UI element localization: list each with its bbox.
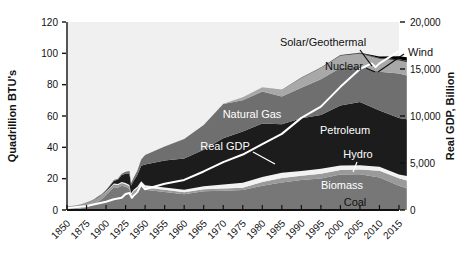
y2-tick-label: 15,000 [410,64,441,75]
x-tick-label: 1960 [166,217,190,241]
chart-figure: 02040608010012005,00010,00015,00020,0001… [0,0,466,263]
label-biomass: Biomass [321,179,364,191]
x-tick-label: 1955 [147,217,171,241]
x-tick-label: 2015 [381,217,405,241]
y-tick-label: 40 [47,142,59,153]
x-tick-label: 1900 [88,217,112,241]
label-nuclear: Nuclear [325,60,363,72]
x-tick-label: 1975 [225,217,249,241]
y-axis-ticks: 020406080100120 [41,17,66,216]
label-hydro: Hydro [343,148,372,160]
x-tick-label: 1990 [283,217,307,241]
y-tick-label: 80 [47,79,59,90]
y2-tick-label: 20,000 [410,17,441,28]
x-tick-label: 1875 [68,217,92,241]
x-tick-label: 1925 [107,217,131,241]
x-tick-label: 1970 [205,217,229,241]
energy-consumption-stacked-area-chart: 02040608010012005,00010,00015,00020,0001… [0,0,466,263]
y-tick-label: 60 [47,111,59,122]
y-tick-label: 120 [41,17,58,28]
label-natural-gas: Natural Gas [223,108,282,120]
label-coal: Coal [344,196,367,208]
y-tick-label: 20 [47,173,59,184]
y-tick-label: 0 [52,205,58,216]
label-wind: Wind [408,46,433,58]
y2-tick-label: 5,000 [410,158,435,169]
y-tick-label: 100 [41,48,58,59]
label-petroleum: Petroleum [320,124,370,136]
x-tick-label: 1980 [244,217,268,241]
x-tick-label: 2000 [322,217,346,241]
y2-tick-label: 0 [410,205,416,216]
x-tick-label: 2010 [361,217,385,241]
y2-tick-label: 10,000 [410,111,441,122]
x-tick-label: 1965 [186,217,210,241]
x-tick-label: 1995 [303,217,327,241]
x-tick-label: 2005 [342,217,366,241]
x-tick-label: 1850 [49,217,73,241]
x-tick-label: 1985 [264,217,288,241]
label-real-gdp: Real GDP [200,140,250,152]
x-tick-label: 1950 [127,217,151,241]
label-solar-geothermal: Solar/Geothermal [280,36,366,48]
y2-axis-title: Real GDP, Billion [444,72,456,161]
y-axis-title: Quadrillion BTU's [6,70,18,162]
